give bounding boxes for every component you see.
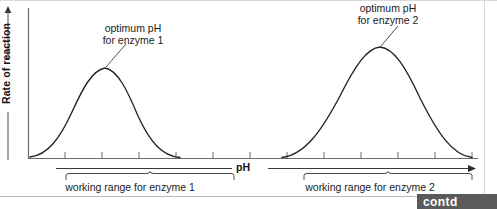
brace-working-range-1 bbox=[66, 172, 234, 180]
brace-working-range-2 bbox=[304, 172, 472, 180]
annotation-optimum-ph-enzyme-2: optimum pH for enzyme 2 bbox=[340, 2, 436, 26]
x-axis-label: pH bbox=[236, 161, 250, 173]
curve-enzyme-1 bbox=[30, 68, 180, 158]
contd-badge-label: contd bbox=[423, 195, 458, 209]
curve-enzyme-2 bbox=[282, 47, 472, 158]
leader-line-enzyme-1 bbox=[106, 44, 126, 67]
annotation-line-2: for enzyme 2 bbox=[340, 14, 436, 26]
annotation-line-2: for enzyme 1 bbox=[85, 34, 181, 46]
label-working-range-enzyme-2: working range for enzyme 2 bbox=[262, 181, 478, 193]
annotation-line-1: optimum pH bbox=[340, 2, 436, 14]
x-axis-ticks bbox=[65, 152, 472, 158]
annotation-line-1: optimum pH bbox=[85, 22, 181, 34]
annotation-optimum-ph-enzyme-1: optimum pH for enzyme 1 bbox=[85, 22, 181, 46]
label-working-range-enzyme-1: working range for enzyme 1 bbox=[22, 181, 238, 193]
chart-plot-area bbox=[0, 0, 497, 209]
enzyme-ph-chart: Rate of reaction pH optimum pH for enzym… bbox=[0, 0, 497, 209]
ph-axis-arrow-icon bbox=[468, 165, 476, 172]
leader-line-enzyme-2 bbox=[381, 26, 398, 46]
